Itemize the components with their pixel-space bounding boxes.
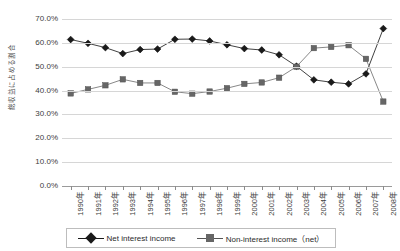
x-tick-label: 2006年 — [352, 192, 363, 216]
x-tick — [279, 186, 280, 190]
data-point — [241, 45, 248, 52]
series-line-0 — [71, 29, 384, 84]
data-point — [242, 81, 247, 86]
x-tick — [262, 186, 263, 190]
legend-label-net-interest-income: Net interest income — [107, 234, 176, 243]
x-tick-label: 2000年 — [248, 192, 259, 216]
x-tick-label: 2003年 — [300, 192, 311, 216]
series-line-1 — [71, 45, 384, 101]
x-tick — [88, 186, 89, 190]
x-tick-label: 1991年 — [92, 192, 103, 216]
data-point — [381, 99, 386, 104]
x-tick-label: 2002年 — [283, 192, 294, 216]
gridline-10 — [62, 162, 392, 163]
legend-marker-diamond-icon — [78, 233, 104, 243]
line-chart: 総収益に占める割合 70.0%60.0%50.0%40.0%30.0%20.0%… — [0, 0, 400, 251]
data-point — [190, 91, 195, 96]
series-layer — [62, 19, 392, 186]
x-tick-label: 1992年 — [109, 192, 120, 216]
x-tick-label: 2008年 — [387, 192, 398, 216]
data-point — [276, 75, 281, 80]
x-tick — [366, 186, 367, 190]
gridline-30 — [62, 114, 392, 115]
data-point — [258, 47, 265, 54]
x-tick-label: 2007年 — [369, 192, 380, 216]
gridline-70 — [62, 19, 392, 20]
x-tick-label: 1996年 — [178, 192, 189, 216]
y-tick-label: 20.0% — [10, 133, 58, 142]
x-tick-label: 2001年 — [265, 192, 276, 216]
y-tick-label: 70.0% — [10, 14, 58, 23]
data-point — [363, 70, 370, 77]
y-tick-label: 30.0% — [10, 109, 58, 118]
y-tick-label: 40.0% — [10, 86, 58, 95]
data-point — [102, 44, 109, 51]
x-tick — [140, 186, 141, 190]
data-point — [380, 25, 387, 32]
x-tick — [331, 186, 332, 190]
x-tick — [105, 186, 106, 190]
data-point — [137, 80, 142, 85]
x-tick-label: 2005年 — [335, 192, 346, 216]
x-tick — [383, 186, 384, 190]
y-tick-label: 10.0% — [10, 157, 58, 166]
x-tick — [192, 186, 193, 190]
x-tick — [210, 186, 211, 190]
x-tick-label: 1995年 — [161, 192, 172, 216]
data-point — [137, 46, 144, 53]
x-tick-label: 2004年 — [317, 192, 328, 216]
legend-item-net-interest-income: Net interest income — [78, 233, 176, 243]
x-tick — [244, 186, 245, 190]
data-point — [67, 36, 74, 43]
y-tick-label: 50.0% — [10, 62, 58, 71]
x-tick-label: 1994年 — [144, 192, 155, 216]
y-tick-label: 0.0% — [10, 181, 58, 190]
x-tick — [314, 186, 315, 190]
x-tick — [71, 186, 72, 190]
data-point — [329, 44, 334, 49]
legend-marker-square-icon — [197, 233, 223, 243]
x-tick — [158, 186, 159, 190]
data-point — [119, 50, 126, 57]
legend-label-non-interest-income: Non-interest income（net） — [226, 233, 325, 244]
legend-item-non-interest-income: Non-interest income（net） — [197, 233, 325, 244]
x-tick-label: 1999年 — [231, 192, 242, 216]
data-point — [276, 51, 283, 58]
data-point — [345, 80, 352, 87]
gridline-20 — [62, 138, 392, 139]
gridline-40 — [62, 91, 392, 92]
data-point — [259, 80, 264, 85]
x-tick-label: 1998年 — [213, 192, 224, 216]
data-point — [154, 46, 161, 53]
data-point — [171, 36, 178, 43]
x-tick-label: 1990年 — [74, 192, 85, 216]
gridline-60 — [62, 43, 392, 44]
x-tick — [349, 186, 350, 190]
x-tick — [175, 186, 176, 190]
x-tick — [297, 186, 298, 190]
x-tick-label: 1993年 — [126, 192, 137, 216]
data-point — [311, 45, 316, 50]
x-tick-label: 1997年 — [196, 192, 207, 216]
plot-area — [62, 19, 392, 186]
gridline-50 — [62, 67, 392, 68]
chart-legend: Net interest income Non-interest income（… — [66, 228, 336, 248]
y-tick-label: 60.0% — [10, 38, 58, 47]
data-point — [103, 83, 108, 88]
data-point — [363, 56, 368, 61]
data-point — [328, 79, 335, 86]
data-point — [189, 36, 196, 43]
x-tick — [123, 186, 124, 190]
data-point — [155, 80, 160, 85]
data-point — [120, 77, 125, 82]
x-tick — [227, 186, 228, 190]
